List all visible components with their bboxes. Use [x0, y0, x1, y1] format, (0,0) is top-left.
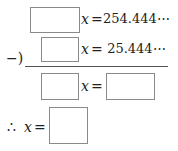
equals-4: = — [34, 119, 46, 135]
therefore-symbol: ∴ — [7, 119, 16, 135]
subtraction-line — [25, 66, 168, 67]
equals-3: = — [91, 78, 103, 94]
answer-box-4[interactable] — [106, 73, 155, 100]
variable-x-1: x — [81, 11, 89, 27]
answer-box-5[interactable] — [49, 107, 88, 144]
equals-1: = — [91, 11, 103, 27]
answer-box-2[interactable] — [41, 37, 79, 62]
answer-box-1[interactable] — [30, 7, 80, 33]
answer-box-3[interactable] — [41, 73, 79, 100]
value-1: 254.444⋯ — [103, 11, 170, 27]
variable-x-3: x — [81, 78, 89, 94]
equals-2: = — [91, 41, 103, 57]
variable-x-2: x — [81, 41, 89, 57]
variable-x-4: x — [24, 119, 32, 135]
value-2: 25.444⋯ — [103, 41, 166, 57]
subtract-operator: −) — [6, 50, 23, 66]
